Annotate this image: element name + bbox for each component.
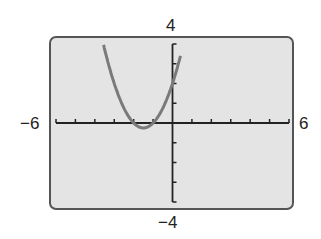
xmax-label: 6 [299,115,308,132]
ymin-label: −4 [158,214,177,231]
graph-screen [0,0,321,239]
xmin-label: −6 [20,115,39,132]
ymax-label: 4 [166,17,175,34]
